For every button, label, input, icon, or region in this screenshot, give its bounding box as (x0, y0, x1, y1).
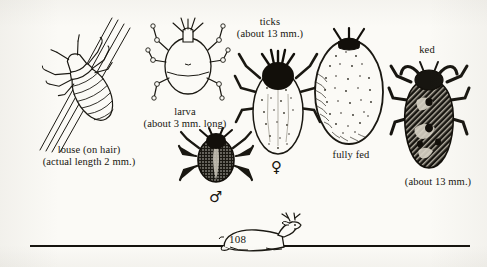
ked-caption-line2: (about 13 mm.) (405, 176, 471, 187)
larva-caption-line1: larva (174, 106, 196, 117)
female-symbol: ♀ (271, 160, 282, 175)
deer-ked-icon (389, 56, 471, 176)
illustration-plate: louse (on hair) (actual length 2 mm.) (0, 0, 487, 267)
fully-fed-tick-figure (306, 26, 392, 148)
ked-caption-line1: ked (419, 44, 434, 55)
male-symbol: ♂ (209, 190, 222, 205)
ked-figure (389, 56, 471, 176)
louse-caption: louse (on hair) (actual length 2 mm.) (24, 144, 154, 169)
fully-fed-caption-line1: fully fed (333, 149, 370, 160)
fully-fed-caption: fully fed (312, 149, 390, 161)
ticks-caption-line1: ticks (260, 16, 280, 27)
ked-caption-top: ked (405, 44, 449, 56)
engorged-tick-icon (306, 26, 392, 148)
louse-caption-line1: louse (on hair) (58, 144, 121, 155)
ked-caption-bottom: (about 13 mm.) (390, 176, 486, 188)
louse-caption-line2: (actual length 2 mm.) (24, 156, 154, 168)
page-number: 108 (229, 233, 246, 245)
